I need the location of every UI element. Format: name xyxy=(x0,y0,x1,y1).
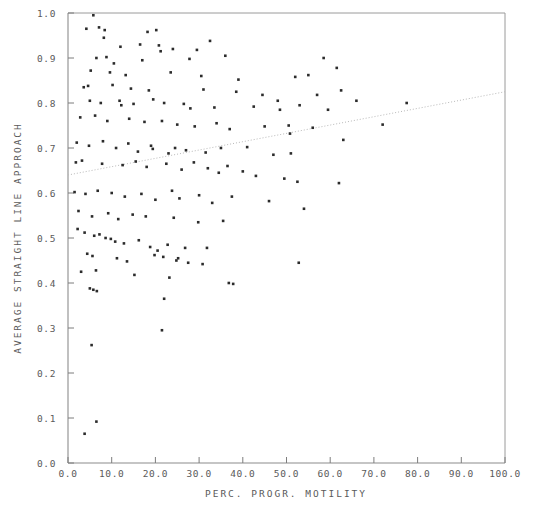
data-point xyxy=(327,108,330,111)
data-point xyxy=(102,140,105,143)
data-point-group xyxy=(73,14,408,435)
data-point xyxy=(140,193,143,196)
data-point xyxy=(104,237,107,240)
data-point xyxy=(132,103,135,106)
data-point xyxy=(381,123,384,126)
data-point xyxy=(176,123,179,126)
data-point xyxy=(81,159,84,162)
data-point xyxy=(171,189,174,192)
data-point xyxy=(316,94,319,97)
data-point xyxy=(303,207,306,210)
data-point xyxy=(84,193,87,196)
data-point xyxy=(294,76,297,79)
data-point xyxy=(276,99,279,102)
data-point xyxy=(127,142,130,145)
data-point xyxy=(197,221,200,224)
data-point xyxy=(153,254,156,257)
x-tick-label: 100.0 xyxy=(489,468,521,479)
data-point xyxy=(85,27,88,30)
x-tick-label: 0.0 xyxy=(59,468,78,479)
data-point xyxy=(261,94,264,97)
data-point xyxy=(172,48,175,51)
data-point xyxy=(165,162,168,165)
data-point xyxy=(124,195,127,198)
data-point xyxy=(213,106,216,109)
data-point xyxy=(83,231,86,234)
data-point xyxy=(107,212,110,215)
data-point xyxy=(185,149,188,152)
data-point xyxy=(86,252,89,255)
data-point xyxy=(149,246,152,249)
data-point xyxy=(163,102,166,105)
data-point xyxy=(220,147,223,150)
data-point xyxy=(322,57,325,60)
data-point xyxy=(200,75,203,78)
data-point xyxy=(126,260,129,263)
data-point xyxy=(73,191,76,194)
data-point xyxy=(98,26,101,29)
data-point xyxy=(77,210,80,213)
data-point xyxy=(183,103,186,106)
data-point xyxy=(178,197,181,200)
data-point xyxy=(134,160,137,163)
data-point xyxy=(151,148,154,151)
data-point xyxy=(96,290,99,293)
data-point xyxy=(338,182,341,185)
x-tick-label: 90.0 xyxy=(449,468,474,479)
x-tick-label: 30.0 xyxy=(186,468,211,479)
data-point xyxy=(161,120,164,123)
data-point xyxy=(105,56,108,59)
data-point xyxy=(228,128,231,131)
data-point xyxy=(106,120,109,123)
data-point xyxy=(268,200,271,203)
data-point xyxy=(80,270,83,273)
y-axis-title: AVERAGE STRAIGHT LINE APPROACH xyxy=(12,122,23,354)
data-point xyxy=(91,215,94,218)
data-point xyxy=(209,40,212,43)
data-point xyxy=(172,216,175,219)
data-point xyxy=(342,139,345,142)
data-point xyxy=(101,162,104,165)
data-point xyxy=(226,165,229,168)
data-point xyxy=(90,344,93,347)
data-point xyxy=(255,175,258,178)
data-point xyxy=(94,114,97,117)
x-tick-label: 40.0 xyxy=(230,468,255,479)
data-point xyxy=(131,213,134,216)
data-point xyxy=(184,247,187,250)
data-point xyxy=(92,288,95,291)
y-tick-label: 0.2 xyxy=(37,368,56,379)
data-point xyxy=(95,57,98,60)
data-point xyxy=(150,144,153,147)
data-point xyxy=(204,151,207,154)
data-point xyxy=(340,89,343,92)
y-tick-label: 0.3 xyxy=(37,323,56,334)
y-tick-label: 0.6 xyxy=(37,188,56,199)
data-point xyxy=(87,85,90,88)
y-tick-label: 0.5 xyxy=(37,233,56,244)
y-tick-label: 0.0 xyxy=(37,458,56,469)
data-point xyxy=(158,44,161,47)
data-point xyxy=(152,98,155,101)
data-point xyxy=(188,58,191,61)
data-point xyxy=(242,170,245,173)
data-point xyxy=(272,153,275,156)
data-point xyxy=(154,198,157,201)
plot-frame xyxy=(68,13,505,463)
x-axis-ticks: 0.010.020.030.040.050.060.070.080.090.01… xyxy=(59,457,521,479)
data-point xyxy=(283,177,286,180)
y-tick-label: 0.1 xyxy=(37,413,56,424)
data-point xyxy=(137,239,140,242)
data-point xyxy=(335,67,338,70)
data-point xyxy=(161,329,164,332)
data-point xyxy=(166,243,169,246)
data-point xyxy=(211,202,214,205)
data-point xyxy=(95,420,98,423)
data-point xyxy=(124,74,127,77)
data-point xyxy=(76,228,79,231)
data-point xyxy=(109,71,112,74)
data-point xyxy=(88,144,91,147)
y-tick-label: 0.9 xyxy=(37,53,56,64)
y-tick-label: 0.4 xyxy=(37,278,56,289)
data-point xyxy=(237,78,240,81)
